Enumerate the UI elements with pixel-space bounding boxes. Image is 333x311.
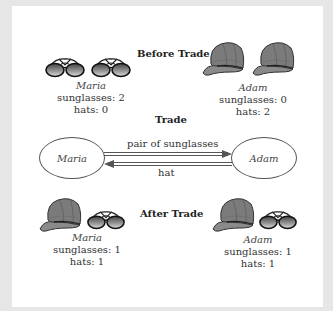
adam-after-info: Adam sunglasses: 1 hats: 1 (213, 234, 303, 270)
adam-after-hats: hats: 1 (213, 258, 303, 270)
maria-after-name: Maria (42, 232, 132, 244)
adam-after-name: Adam (213, 234, 303, 246)
maria-after-sunglasses: sunglasses: 1 (42, 244, 132, 256)
maria-after-hats: hats: 1 (42, 256, 132, 268)
maria-after-info: Maria sunglasses: 1 hats: 1 (42, 232, 132, 268)
arrow-to-adam (104, 150, 232, 158)
arrow-to-maria (104, 160, 232, 168)
sunglasses-icon (258, 209, 298, 230)
cap-icon (211, 196, 257, 234)
cap-icon (38, 196, 84, 234)
adam-after-sunglasses: sunglasses: 1 (213, 246, 303, 258)
sunglasses-icon (86, 209, 126, 230)
after-trade-heading: After Trade (140, 208, 203, 219)
